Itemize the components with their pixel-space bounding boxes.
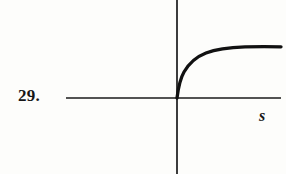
x-axis-label: s — [259, 107, 265, 125]
figure-container: 29. s — [0, 0, 286, 174]
data-curve — [177, 47, 281, 98]
plot-canvas — [0, 0, 286, 174]
